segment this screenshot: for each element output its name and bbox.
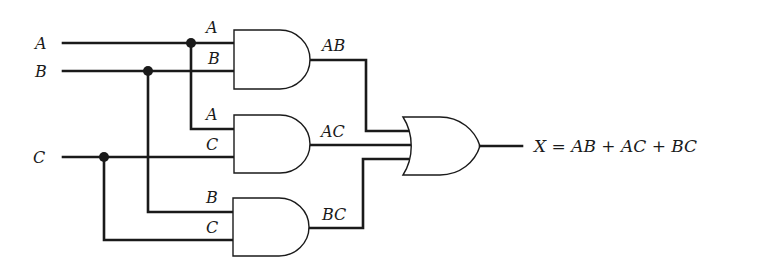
and3-input-label-1: B bbox=[205, 188, 218, 207]
and1-output-label: AB bbox=[320, 36, 346, 55]
and-gate-1 bbox=[234, 30, 310, 89]
and-gate-2 bbox=[234, 115, 310, 173]
input-label-b: B bbox=[34, 62, 47, 81]
junction-dot-b bbox=[143, 66, 153, 76]
input-label-a: A bbox=[33, 34, 47, 53]
and2-input-label-1: A bbox=[204, 105, 218, 124]
junction-dot-a bbox=[186, 38, 196, 48]
logic-circuit-diagram: A B C A B A C B C AB AC BC X = AB + AC +… bbox=[0, 0, 759, 270]
and2-input-label-2: C bbox=[206, 135, 218, 154]
and1-input-label-1: A bbox=[204, 18, 218, 37]
or-gate bbox=[403, 117, 480, 175]
junction-dot-c bbox=[99, 152, 109, 162]
and3-input-label-2: C bbox=[206, 218, 218, 237]
and3-output-label: BC bbox=[321, 205, 346, 224]
wire-ab bbox=[310, 60, 408, 131]
and-gate-3 bbox=[233, 198, 309, 256]
input-label-c: C bbox=[33, 148, 45, 167]
and2-output-label: AC bbox=[319, 122, 345, 141]
output-equation: X = AB + AC + BC bbox=[532, 136, 697, 156]
and1-input-label-2: B bbox=[207, 49, 220, 68]
